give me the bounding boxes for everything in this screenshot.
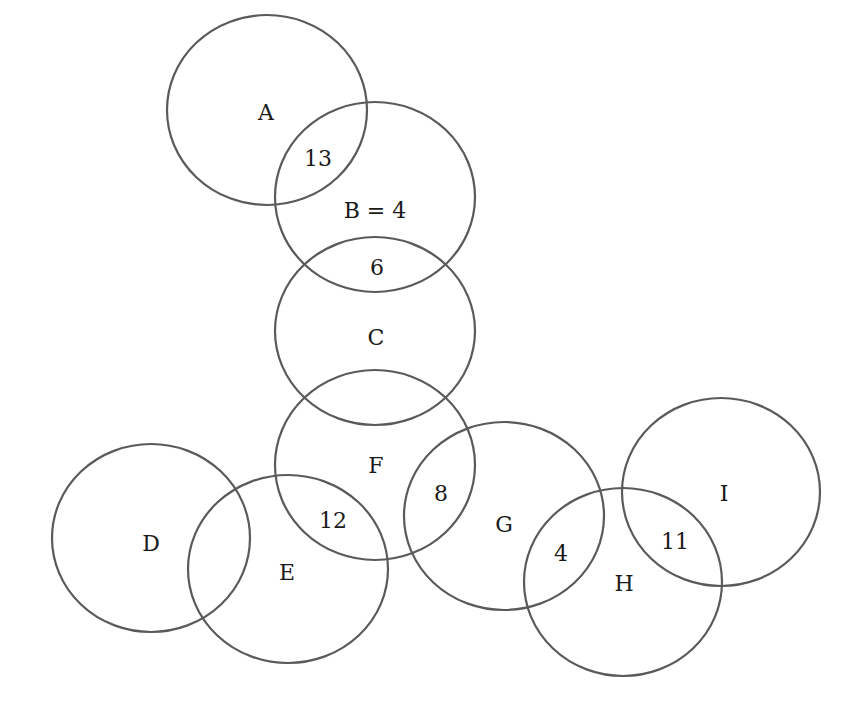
set-labels: AB = 4CFDEGHI — [142, 100, 728, 596]
set-label-h: H — [614, 571, 633, 596]
set-label-i: I — [720, 481, 729, 506]
set-label-a: A — [257, 100, 275, 125]
set-label-b: B = 4 — [344, 198, 407, 223]
intersection-value-b-c: 6 — [370, 255, 384, 280]
set-label-g: G — [495, 512, 513, 537]
set-label-c: C — [368, 325, 385, 350]
set-diagram: AB = 4CFDEGHI 136128411 — [0, 0, 867, 721]
intersection-value-e-f: 12 — [319, 508, 347, 533]
set-label-d: D — [142, 531, 160, 556]
intersection-value-h-i: 11 — [661, 529, 689, 554]
set-label-e: E — [279, 560, 295, 585]
set-label-f: F — [368, 453, 383, 478]
intersection-value-a-b: 13 — [304, 146, 332, 171]
set-circles — [52, 15, 820, 676]
intersection-value-f-g: 8 — [434, 481, 448, 506]
intersection-value-g-h: 4 — [554, 541, 568, 566]
